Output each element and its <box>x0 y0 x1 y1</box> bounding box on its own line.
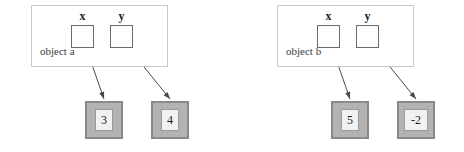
arrow-head-a-y <box>164 92 170 99</box>
arrow-head-a-x <box>99 92 104 99</box>
object-box-a: object a <box>31 5 168 67</box>
variable-label-b-x: x <box>317 10 340 22</box>
variable-label-a-x: x <box>71 10 94 22</box>
value-box-a-1[interactable]: 4 <box>151 101 189 139</box>
variable-label-a-y: y <box>110 10 133 22</box>
variable-slot-b-y[interactable] <box>356 25 379 48</box>
value-text-a-0: 3 <box>95 109 113 131</box>
variable-slot-a-y[interactable] <box>110 25 133 48</box>
arrow-head-b-y <box>410 92 416 99</box>
variable-slot-b-x[interactable] <box>317 25 340 48</box>
object-label-b: object b <box>286 46 321 57</box>
value-box-b-1[interactable]: -2 <box>397 101 435 139</box>
object-label-a: object a <box>40 46 75 57</box>
variable-slot-a-x[interactable] <box>71 25 94 48</box>
value-box-a-0[interactable]: 3 <box>85 101 123 139</box>
value-text-b-1: -2 <box>404 109 428 131</box>
variable-label-b-y: y <box>356 10 379 22</box>
value-text-b-0: 5 <box>341 109 359 131</box>
arrow-head-b-x <box>345 92 350 99</box>
diagram-canvas: object a x y 3 4 object b x y 5 -2 <box>0 0 464 152</box>
value-text-a-1: 4 <box>161 109 179 131</box>
object-box-b: object b <box>277 5 414 67</box>
value-box-b-0[interactable]: 5 <box>331 101 369 139</box>
